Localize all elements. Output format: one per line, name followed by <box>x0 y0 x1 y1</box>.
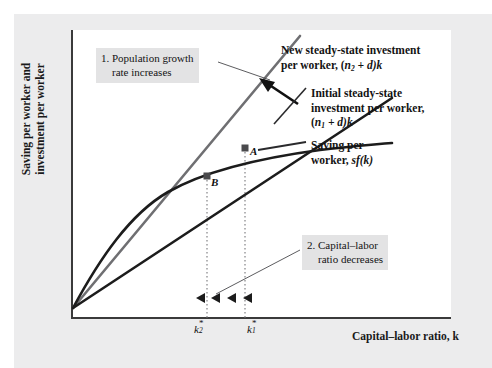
x-tick-k2-star: k*2 <box>194 322 204 335</box>
point-marker-b <box>204 173 211 180</box>
label-new-investment: New steady-state investment per worker, … <box>281 43 420 76</box>
label-initial-investment: Initial steady-state investment per work… <box>311 86 424 134</box>
x-tick-k1-star: k*1 <box>247 322 257 335</box>
callout-population-growth: 1. Population growth rate increases <box>96 48 199 83</box>
solow-model-figure: Saving per worker and investment per wor… <box>0 0 492 368</box>
callout-population-line1: Population growth <box>112 52 194 64</box>
motion-arrows <box>196 293 252 303</box>
label-initial-investment-line1: Initial steady-state <box>311 86 424 101</box>
callout-ratio-line1: Capital–labor <box>318 239 378 251</box>
callout-population-line2: rate increases <box>101 65 194 79</box>
callout-ratio-line2: ratio decreases <box>307 252 383 266</box>
leader-line-ratio <box>216 250 300 294</box>
point-label-a: A <box>250 145 257 157</box>
point-label-b: B <box>211 176 218 188</box>
label-new-investment-line2: per worker, (n2 + d)k <box>281 58 420 77</box>
leader-line-initial-investment <box>274 88 306 124</box>
motion-arrow <box>211 293 220 303</box>
shift-arrow <box>259 78 298 104</box>
motion-arrow <box>196 293 205 303</box>
label-saving-line1: Saving per <box>311 138 373 153</box>
label-new-investment-line1: New steady-state investment <box>281 43 420 58</box>
label-saving-line2: worker, sf(k) <box>311 153 373 168</box>
label-initial-investment-line2: investment per worker, <box>311 101 424 116</box>
label-initial-investment-line3: (n1 + d)k <box>311 115 424 134</box>
label-saving-per-worker: Saving per worker, sf(k) <box>311 138 373 167</box>
callout-capital-labor-ratio: 2. Capital–labor ratio decreases <box>302 235 388 270</box>
motion-arrow <box>227 293 236 303</box>
callout-ratio-number: 2. <box>307 239 315 251</box>
point-marker-a <box>242 145 249 152</box>
leader-line-saving <box>258 142 306 150</box>
callout-population-number: 1. <box>101 52 109 64</box>
leader-line-population <box>218 62 270 80</box>
curve-saving <box>73 143 392 308</box>
